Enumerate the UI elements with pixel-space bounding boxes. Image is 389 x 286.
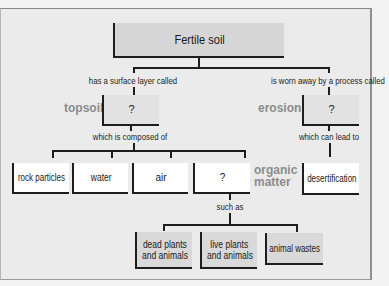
term-organic-matter: organic matter bbox=[254, 164, 297, 188]
connector bbox=[244, 150, 246, 158]
connector bbox=[328, 67, 330, 73]
node-label: water bbox=[91, 172, 112, 183]
node-label-line1: live plants bbox=[211, 239, 249, 250]
node-fertile-soil: Fertile soil bbox=[113, 23, 284, 58]
term-erosion: erosion bbox=[258, 102, 301, 114]
connector bbox=[328, 87, 330, 95]
connector bbox=[111, 150, 113, 158]
connector bbox=[170, 150, 172, 158]
node-desertification: desertification bbox=[302, 163, 359, 195]
node-air: air bbox=[132, 163, 188, 194]
node-label: Fertile soil bbox=[174, 34, 224, 45]
node-animal-wastes: animal wastes bbox=[265, 233, 323, 265]
blank-mark: ? bbox=[220, 172, 226, 183]
node-label: desertification bbox=[307, 173, 356, 184]
link-label-composed-of: which is composed of bbox=[89, 131, 171, 142]
node-live-plants-animals: live plants and animals bbox=[200, 232, 257, 269]
node-label-line2: and animals bbox=[142, 250, 188, 261]
node-rock-particles: rock particles bbox=[12, 163, 69, 194]
connector bbox=[329, 143, 331, 157]
link-label-worn-away: is worn away by a process called bbox=[258, 75, 389, 86]
connector bbox=[52, 150, 245, 152]
node-dead-plants-animals: dead plants and animals bbox=[135, 232, 192, 269]
node-label-line2: and animals bbox=[207, 250, 253, 261]
node-label: rock particles bbox=[18, 172, 65, 183]
connector bbox=[133, 67, 135, 73]
node-water: water bbox=[72, 163, 128, 194]
node-organic-blank: ? bbox=[193, 163, 250, 194]
blank-mark: ? bbox=[328, 104, 334, 115]
connector bbox=[163, 224, 165, 231]
connector bbox=[133, 67, 329, 69]
link-label-such-as: such as bbox=[210, 201, 251, 212]
connector bbox=[163, 224, 297, 226]
connector bbox=[229, 193, 231, 200]
node-label-line1: dead plants bbox=[143, 239, 187, 250]
term-topsoil: topsoil bbox=[64, 102, 103, 114]
node-label: animal wastes bbox=[270, 243, 321, 254]
connector bbox=[133, 87, 135, 95]
node-label: air bbox=[155, 172, 166, 183]
link-label-can-lead-to: which can lead to bbox=[295, 131, 362, 142]
connector bbox=[52, 150, 54, 158]
node-erosion-blank: ? bbox=[302, 95, 359, 126]
link-label-surface-layer: has a surface layer called bbox=[80, 75, 187, 86]
node-topsoil-blank: ? bbox=[102, 95, 159, 126]
term-organic-line2: matter bbox=[254, 176, 297, 188]
blank-mark: ? bbox=[128, 104, 134, 115]
connector bbox=[296, 224, 298, 232]
